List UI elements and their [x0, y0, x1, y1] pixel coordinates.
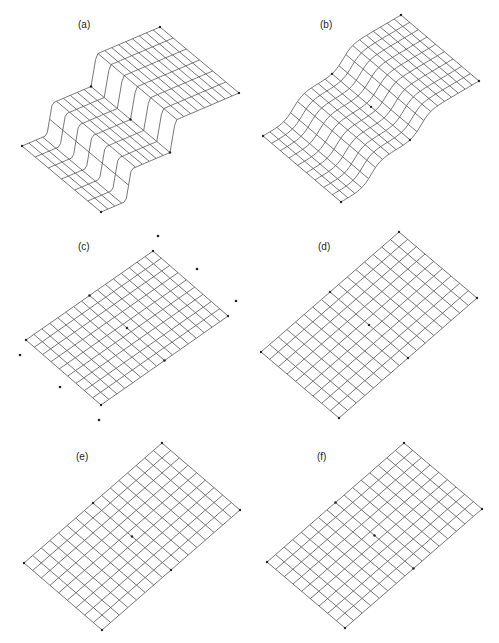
outlier-point	[59, 386, 62, 389]
mesh-panel-d	[260, 231, 478, 419]
figure-six-panel-mesh: (a) (b) (c) (d) (e) (f)	[0, 0, 499, 643]
outlier-point	[196, 268, 199, 271]
panel-label-f: (f)	[317, 451, 326, 462]
outlier-point	[235, 300, 238, 303]
mesh-panel-e	[23, 442, 241, 631]
panel-label-c: (c)	[78, 241, 90, 252]
panel-label-a: (a)	[78, 19, 90, 30]
panel-label-e: (e)	[76, 451, 88, 462]
mesh-panel-b	[262, 14, 480, 203]
outlier-point	[98, 419, 101, 422]
mesh-panel-c	[19, 235, 238, 422]
outlier-point	[157, 235, 160, 238]
panel-label-d: (d)	[318, 241, 330, 252]
mesh-panel-a	[21, 26, 240, 213]
outlier-point	[19, 354, 22, 357]
panel-label-b: (b)	[320, 19, 332, 30]
mesh-panel-f	[266, 442, 483, 629]
mesh-canvas	[0, 0, 499, 643]
